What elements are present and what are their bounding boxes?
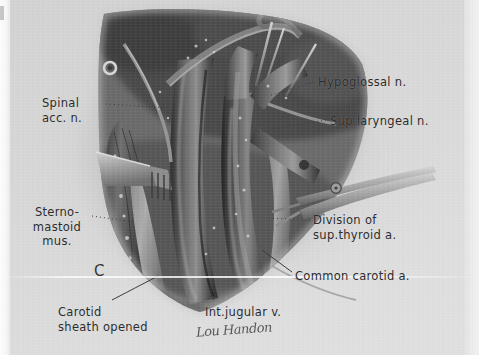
label-superior-laryngeal-nerve: Sup.laryngeal n. [330,114,429,129]
label-hypoglossal-nerve: Hypoglossal n. [318,75,406,90]
surgical-illustration-plate: Spinal acc. n. Hypoglossal n. Sup.laryng… [0,0,479,355]
label-line: Sterno- [25,205,89,220]
label-line: Int.jugular v. [205,305,281,320]
label-division-superior-thyroid-artery: Division of sup.thyroid a. [313,213,396,242]
anatomical-drawing [0,0,479,355]
label-line: mus. [25,234,89,249]
label-line: Carotid [58,305,148,320]
label-internal-jugular-vein: Int.jugular v. [205,305,281,320]
label-line: Hypoglossal n. [318,75,406,90]
label-line: sheath opened [58,320,148,335]
label-spinal-accessory-nerve: Spinal acc. n. [42,96,82,125]
label-line: Spinal [42,96,82,111]
figure-letter: C [94,264,104,279]
superior-thyroid-ligature [299,160,309,170]
leader-carotid-sheath [112,276,158,300]
label-line: sup.thyroid a. [313,228,396,243]
label-line: mastoid [25,220,89,235]
label-line: acc. n. [42,111,82,126]
label-line: Division of [313,213,396,228]
label-line: Sup.laryngeal n. [330,114,429,129]
label-carotid-sheath-opened: Carotid sheath opened [58,305,148,334]
label-sternomastoid-muscle: Sterno- mastoid mus. [25,205,89,249]
label-common-carotid-artery: Common carotid a. [295,269,410,284]
label-line: Common carotid a. [295,269,410,284]
